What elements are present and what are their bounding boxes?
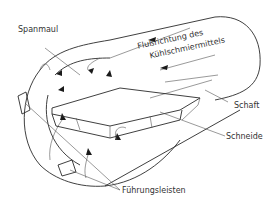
guide-strip-bottom [58,160,76,176]
arrow-icon [58,86,64,92]
arrow-icon [88,68,94,74]
guide-strip-left [18,92,30,114]
label-schaft: Schaft [234,101,259,110]
arrow-icon [86,148,92,155]
leader-lines [26,48,228,190]
arrow-icon [106,70,112,77]
label-schneide: Schneide [226,132,263,141]
reamer-diagram: Spanmaul Flußrichtung des Kühlschmiermit… [0,0,272,215]
flow-arrow-icon [160,65,168,70]
label-spanmaul: Spanmaul [18,25,58,34]
cutting-edge [52,88,200,138]
label-fuehrungsleisten: Führungsleisten [122,186,186,195]
